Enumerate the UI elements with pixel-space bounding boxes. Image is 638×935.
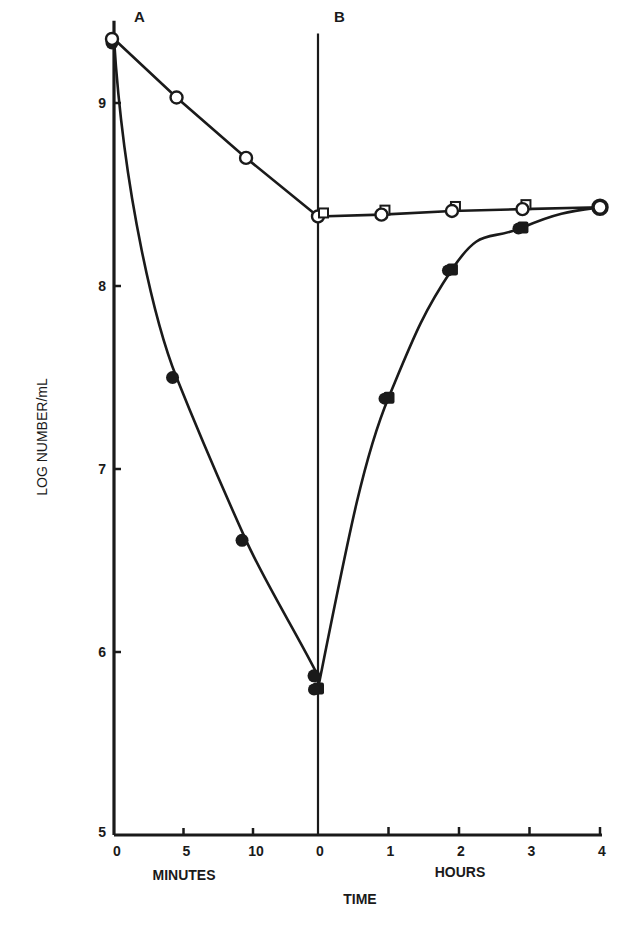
- point-filled-b: [308, 684, 320, 696]
- marks: [106, 33, 608, 696]
- y-tick-label-8: 8: [98, 278, 106, 294]
- y-tick-label-9: 9: [98, 95, 106, 111]
- x-tick-label-min-0: 0: [113, 843, 121, 859]
- curve-filled-a: [114, 39, 318, 676]
- point-filled-a: [236, 534, 249, 547]
- x-label-hours: HOURS: [435, 864, 486, 880]
- y-tick-label-6: 6: [98, 644, 106, 660]
- point-open-b: [593, 200, 607, 214]
- curve-filled-b: [318, 207, 600, 688]
- x-axis-title: TIME: [343, 891, 376, 907]
- x-tick-label-hr-1: 1: [387, 843, 395, 859]
- point-open-b: [516, 203, 528, 215]
- y-axis-title: LOG NUMBER/mL: [34, 378, 50, 496]
- x-tick-label-hr-0: 0: [316, 843, 324, 859]
- point-filled-b: [379, 393, 391, 405]
- point-filled-a: [166, 371, 179, 384]
- x-tick-label-hr-4: 4: [598, 843, 606, 859]
- y-tick-label-7: 7: [98, 461, 106, 477]
- point-open-b: [375, 209, 387, 221]
- point-open-square-b: [319, 208, 328, 217]
- x-tick-label-min-10: 10: [248, 843, 264, 859]
- point-open-a: [171, 92, 183, 104]
- point-open-a: [240, 152, 252, 164]
- point-open-b: [446, 205, 458, 217]
- y-tick-label-5: 5: [98, 824, 106, 840]
- curves: [114, 39, 600, 689]
- point-filled-b: [512, 222, 524, 234]
- x-tick-label-hr-2: 2: [457, 843, 465, 859]
- axes: 56789051001234: [98, 21, 606, 859]
- point-filled-b: [442, 265, 454, 277]
- chart: 56789051001234 A B MINUTES HOURS TIME LO…: [0, 0, 638, 935]
- panel-label-a: A: [134, 8, 145, 25]
- x-label-minutes: MINUTES: [153, 867, 216, 883]
- point-filled-a: [308, 669, 321, 682]
- curve-open-a: [114, 39, 318, 217]
- x-tick-label-hr-3: 3: [528, 843, 536, 859]
- x-tick-label-min-5: 5: [183, 843, 191, 859]
- point-open-a: [106, 33, 118, 45]
- panel-label-b: B: [334, 8, 345, 25]
